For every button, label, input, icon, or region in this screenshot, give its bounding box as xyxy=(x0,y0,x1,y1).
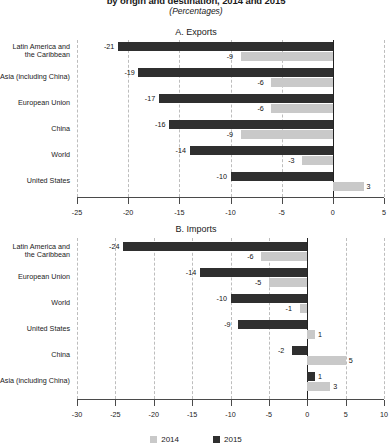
bar-value-label: -6 xyxy=(247,252,253,261)
bar-value-label: -3 xyxy=(288,156,294,165)
bar-2015 xyxy=(159,94,333,103)
category-label-line: Asia (including China) xyxy=(0,377,70,385)
bar-2015 xyxy=(123,242,307,251)
category-labels-imports: Latin America andthe CaribbeanEuropean U… xyxy=(0,238,74,420)
category-label: China xyxy=(0,125,70,133)
gridline xyxy=(77,40,78,197)
bar-2015 xyxy=(138,68,332,77)
axis-tick-label: -25 xyxy=(100,410,130,419)
bar-2014 xyxy=(307,356,345,365)
axis-tick xyxy=(333,198,334,204)
gridline xyxy=(77,238,78,399)
bar-value-label: 1 xyxy=(318,372,322,381)
axis-tick xyxy=(128,198,129,204)
bar-2015 xyxy=(118,42,333,51)
legend-swatch-icon xyxy=(213,436,220,443)
axis-tick-label: -20 xyxy=(139,410,169,419)
bar-2015 xyxy=(231,294,308,303)
bar-2015 xyxy=(307,372,315,381)
gridline xyxy=(128,40,129,197)
chart-page: by origin and destination, 2014 and 2015… xyxy=(0,0,392,446)
bar-value-label: 3 xyxy=(367,182,371,191)
axis-tick-label: 5 xyxy=(369,208,392,217)
gridline xyxy=(179,40,180,197)
bar-value-label: -6 xyxy=(257,104,263,113)
axis-tick-label: -10 xyxy=(216,208,246,217)
bar-value-label: -9 xyxy=(227,52,233,61)
zero-line xyxy=(333,40,334,197)
bar-2014 xyxy=(300,304,308,313)
bar-value-label: 5 xyxy=(349,356,353,365)
plot-exports: -21-9-19-6-17-6-16-9-14-3-103 -25-20-15-… xyxy=(77,40,384,218)
axis-tick xyxy=(115,400,116,406)
bar-2014 xyxy=(269,278,307,287)
plot-area-exports: -21-9-19-6-17-6-16-9-14-3-103 xyxy=(77,40,384,197)
category-label-line: United States xyxy=(0,177,70,185)
category-label-line: World xyxy=(0,299,70,307)
category-label-line: World xyxy=(0,151,70,159)
axis-tick xyxy=(77,400,78,406)
bar-value-label: -10 xyxy=(217,172,227,181)
axis-tick-label: 10 xyxy=(369,410,392,419)
bar-2015 xyxy=(169,120,333,129)
axis-tick xyxy=(231,198,232,204)
plot-area-imports: -24-6-14-5-10-1-91-2513 xyxy=(77,238,384,399)
category-label: European Union xyxy=(0,99,70,107)
plot-imports: -24-6-14-5-10-1-91-2513 -30-25-20-15-10-… xyxy=(77,238,384,420)
bar-value-label: 3 xyxy=(333,382,337,391)
category-label: China xyxy=(0,351,70,359)
category-label: Asia (including China) xyxy=(0,73,70,81)
bar-value-label: -19 xyxy=(124,68,134,77)
bar-value-label: -9 xyxy=(227,130,233,139)
axis-tick-label: 0 xyxy=(318,208,348,217)
bar-value-label: -17 xyxy=(145,94,155,103)
category-label: World xyxy=(0,299,70,307)
category-label: European Union xyxy=(0,273,70,281)
bar-2014 xyxy=(307,330,315,339)
bar-value-label: -24 xyxy=(109,242,119,251)
axis-tick xyxy=(384,400,385,406)
axis-tick xyxy=(231,400,232,406)
bar-2014 xyxy=(271,78,332,87)
bar-value-label: -21 xyxy=(104,42,114,51)
panel-exports: Latin America andthe CaribbeanAsia (incl… xyxy=(0,40,392,218)
axis-tick-label: -10 xyxy=(216,410,246,419)
bar-value-label: -10 xyxy=(217,294,227,303)
chart-legend: 20142015 xyxy=(0,435,392,444)
gridline xyxy=(384,40,385,197)
axis-tick xyxy=(77,198,78,204)
bar-value-label: -9 xyxy=(224,320,230,329)
axis-tick-label: -15 xyxy=(177,410,207,419)
category-label-line: China xyxy=(0,351,70,359)
legend-label: 2014 xyxy=(161,435,179,444)
category-label-line: the Caribbean xyxy=(0,51,70,59)
bar-2014 xyxy=(302,156,333,165)
panel-imports: Latin America andthe CaribbeanEuropean U… xyxy=(0,238,392,420)
axis-tick-label: -25 xyxy=(62,208,92,217)
gridline xyxy=(154,238,155,399)
category-label-line: Asia (including China) xyxy=(0,73,70,81)
category-label-line: the Caribbean xyxy=(0,251,70,259)
axis-tick-label: -20 xyxy=(113,208,143,217)
axis-tick xyxy=(192,400,193,406)
panel-title-exports: A. Exports xyxy=(0,27,392,37)
axis-tick-label: -30 xyxy=(62,410,92,419)
gridline xyxy=(115,238,116,399)
bar-value-label: -1 xyxy=(286,304,292,313)
bar-value-label: -14 xyxy=(186,268,196,277)
category-label: Latin America andthe Caribbean xyxy=(0,43,70,60)
axis-tick xyxy=(282,198,283,204)
gridline xyxy=(192,238,193,399)
bar-2015 xyxy=(238,320,307,329)
gridline xyxy=(384,238,385,399)
bar-2015 xyxy=(292,346,307,355)
axis-tick xyxy=(384,198,385,204)
gridline xyxy=(346,238,347,399)
bar-2015 xyxy=(190,146,333,155)
bar-2014 xyxy=(271,104,332,113)
axis-tick xyxy=(346,400,347,406)
bar-value-label: -5 xyxy=(255,278,261,287)
bar-2014 xyxy=(307,382,330,391)
category-label: Latin America andthe Caribbean xyxy=(0,243,70,260)
bar-value-label: -6 xyxy=(257,78,263,87)
